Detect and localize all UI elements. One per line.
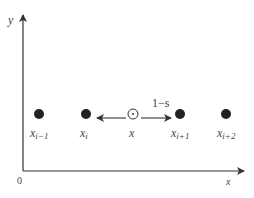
point-x-i-minus-1: [34, 109, 44, 119]
point-x-i-plus-1: [175, 109, 185, 119]
interp-point-label: x: [128, 126, 135, 140]
x-axis-label: x: [225, 176, 231, 187]
label-x-i-plus-2: xi+2: [216, 126, 236, 141]
point-x-i-plus-2: [221, 109, 231, 119]
circle-dot-center: [132, 113, 134, 115]
interpolation-diagram: y x 0 xi−1 xi xi+1 xi+2 1−s x: [0, 0, 254, 198]
origin-label: 0: [17, 175, 22, 186]
label-x-i-plus-1: xi+1: [170, 126, 189, 141]
point-x-i: [81, 109, 91, 119]
arrow-label-one-minus-s: 1−s: [152, 96, 170, 110]
y-axis-label: y: [7, 13, 14, 27]
label-x-i-minus-1: xi−1: [29, 126, 48, 141]
label-x-i: xi: [79, 126, 88, 141]
